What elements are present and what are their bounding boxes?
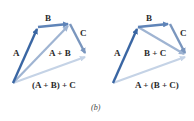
label-a-plus-b: A + B bbox=[49, 48, 71, 58]
label-c: C bbox=[80, 28, 87, 38]
vector-addition-figure: A B C A + B (A + B) + C A B C B + C A + … bbox=[0, 0, 194, 121]
vector-b-arrow bbox=[38, 24, 68, 27]
vector-b-arrow bbox=[138, 24, 168, 27]
label-c: C bbox=[180, 28, 187, 38]
label-total: A + (B + C) bbox=[135, 80, 179, 90]
left-diagram: A B C A + B (A + B) + C bbox=[13, 13, 87, 90]
label-b-plus-c: B + C bbox=[144, 48, 166, 58]
label-total: (A + B) + C bbox=[32, 80, 76, 90]
label-b: B bbox=[45, 13, 51, 23]
figure-caption: (b) bbox=[91, 103, 101, 112]
label-a: A bbox=[13, 48, 20, 58]
label-b: B bbox=[146, 13, 152, 23]
label-a: A bbox=[114, 48, 121, 58]
right-diagram: A B C B + C A + (B + C) bbox=[113, 13, 187, 90]
